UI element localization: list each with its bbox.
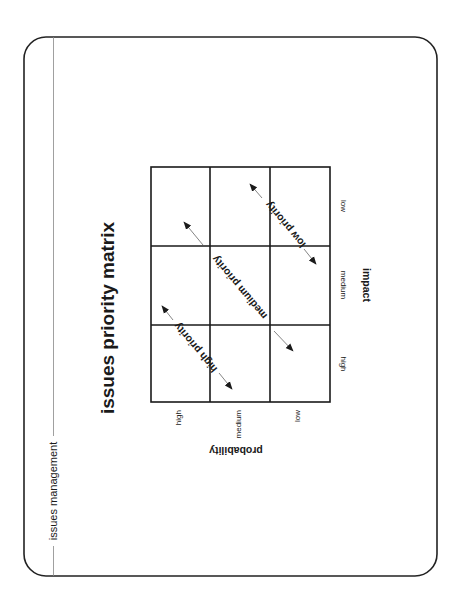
high-priority-arrow: high priority (162, 306, 232, 389)
page-title: issues priority matrix (97, 221, 118, 414)
probability-axis-label: probability (209, 445, 263, 457)
impact-tick-high: high (339, 356, 348, 371)
impact-axis-label: impact (361, 268, 373, 302)
low-priority-arrow: low priority (250, 184, 316, 264)
slide-canvas: issues management issues priority matrix… (0, 0, 462, 609)
probability-tick-medium: medium (234, 410, 243, 439)
high-priority-label: high priority (171, 320, 220, 375)
probability-tick-high: high (174, 410, 183, 425)
probability-tick-low: low (293, 410, 302, 422)
low-priority-label: low priority (262, 199, 308, 250)
impact-tick-medium: medium (339, 271, 348, 300)
medium-priority-label: medium priority (209, 253, 269, 322)
impact-tick-low: low (339, 200, 348, 212)
medium-priority-arrow: medium priority (184, 222, 293, 351)
slide-frame (24, 37, 437, 576)
section-label: issues management (47, 442, 59, 540)
